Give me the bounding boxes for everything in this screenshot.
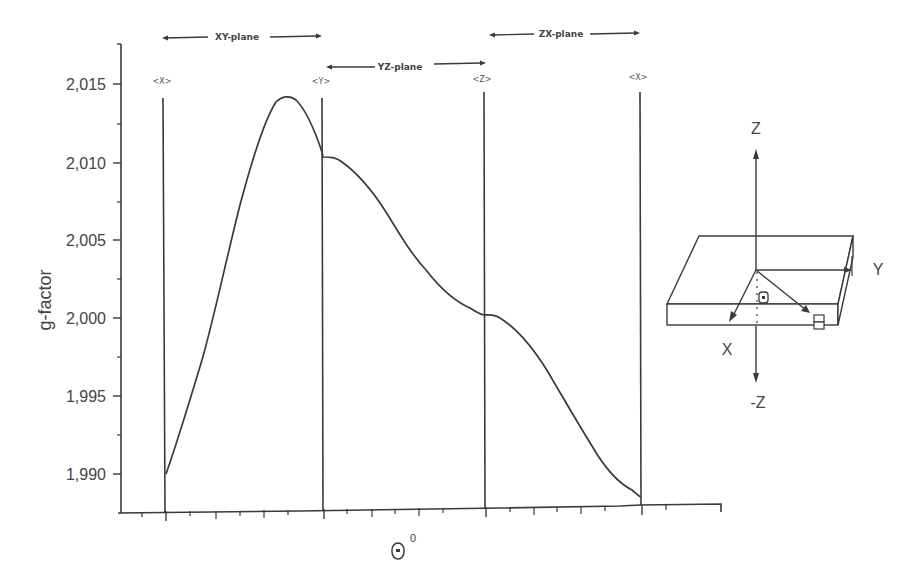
g-factor-curve <box>166 97 641 497</box>
x-axis <box>118 504 721 521</box>
x-axis-title: 0 <box>392 532 416 559</box>
z-arrow-icon <box>753 149 759 159</box>
line-z <box>484 92 485 508</box>
y-tick-2010: 2,010 <box>66 155 106 172</box>
marker-x-end: <X> <box>629 73 648 82</box>
degree-superscript: 0 <box>410 532 416 544</box>
g-factor-chart: 2,015 2,010 2,005 2,000 1,995 1,990 g-fa… <box>0 0 908 578</box>
line-x-end <box>640 92 641 505</box>
neg-z-axis-label: -Z <box>750 394 765 411</box>
y-axis-title: g-factor <box>35 269 55 330</box>
y-tick-labels: 2,015 2,010 2,005 2,000 1,995 1,990 <box>66 76 106 483</box>
z-axis-label: Z <box>751 120 761 137</box>
y-tick-1990: 1,990 <box>66 466 106 483</box>
direction-markers: <X> <Y> <Z> <X> <box>153 73 648 86</box>
y-tick-2000: 2,000 <box>66 310 106 327</box>
plane-annotations: XY-plane YZ-plane ZX-plane <box>162 29 640 72</box>
yz-plane-label: YZ-plane <box>377 62 423 72</box>
direction-lines <box>163 92 641 512</box>
y-tick-1995: 1,995 <box>66 388 106 405</box>
neg-z-arrow-icon <box>753 373 759 383</box>
y-axis-label: Y <box>873 261 884 278</box>
y-tick-2015: 2,015 <box>66 76 106 93</box>
marker-y: <Y> <box>312 77 330 86</box>
line-x-start <box>163 98 165 512</box>
x-axis-label: X <box>722 341 733 358</box>
orientation-diagram: Z Y X -Z <box>667 120 884 411</box>
xy-plane-label: XY-plane <box>215 32 259 42</box>
marker-x-start: <X> <box>153 77 172 86</box>
y-tick-2005: 2,005 <box>66 232 106 249</box>
zx-plane-label: ZX-plane <box>539 29 584 39</box>
y-axis <box>113 44 121 513</box>
marker-z: <Z> <box>473 75 492 84</box>
line-y <box>322 98 323 510</box>
